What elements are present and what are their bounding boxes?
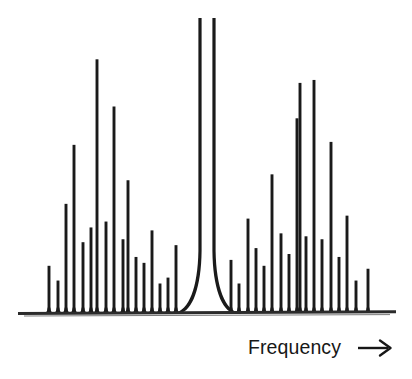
spectrum-spike bbox=[280, 233, 283, 313]
spectrum-spike bbox=[122, 239, 125, 313]
spectrum-spike bbox=[271, 174, 274, 313]
spectrum-spike bbox=[90, 227, 93, 313]
spectrum-plot bbox=[0, 0, 412, 379]
spectrum-spike bbox=[247, 219, 250, 313]
spectrum-figure: Frequency bbox=[0, 0, 412, 379]
spectrum-spike bbox=[255, 248, 258, 313]
spectrum-spike bbox=[65, 204, 68, 313]
spectrum-spike bbox=[151, 230, 154, 313]
spectrum-spike bbox=[143, 263, 146, 313]
spectrum-spike bbox=[167, 278, 170, 313]
spectrum-spike bbox=[321, 239, 324, 313]
spectrum-spike bbox=[330, 142, 333, 313]
spectrum-spike bbox=[127, 180, 130, 313]
spectrum-spike bbox=[338, 257, 341, 313]
spectrum-spike bbox=[96, 59, 99, 313]
spectrum-spike bbox=[159, 284, 162, 314]
spectrum-spike bbox=[48, 266, 51, 313]
spectrum-spike bbox=[313, 80, 316, 313]
spectrum-spike bbox=[238, 284, 241, 314]
plot-background bbox=[0, 0, 412, 379]
spectrum-spike bbox=[113, 107, 116, 314]
spectrum-spike bbox=[57, 281, 60, 313]
spectrum-spike bbox=[105, 222, 108, 313]
spectrum-spike bbox=[135, 257, 138, 313]
spectrum-spike bbox=[263, 266, 266, 313]
baseline bbox=[18, 312, 396, 314]
spectrum-spike bbox=[288, 254, 291, 313]
spectrum-spike bbox=[230, 260, 233, 313]
spectrum-spike bbox=[296, 118, 299, 313]
spectrum-spike bbox=[299, 83, 302, 313]
spectrum-spike bbox=[367, 269, 370, 313]
spectrum-spike bbox=[346, 216, 349, 313]
spectrum-spike bbox=[305, 236, 308, 313]
spectrum-spike bbox=[175, 245, 178, 313]
spectrum-spike bbox=[355, 281, 358, 313]
spectrum-spike bbox=[73, 145, 76, 313]
spectrum-spike bbox=[82, 242, 85, 313]
